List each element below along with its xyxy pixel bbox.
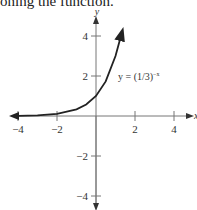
curve-left-arrow [9, 112, 19, 120]
graph: −4 −2 2 4 4 2 −2 −4 x y y = (1/3)−x [0, 0, 197, 210]
y-tick-label: −2 [76, 150, 88, 162]
x-tick-label: 2 [132, 123, 138, 135]
curve-label: y = (1/3)−x [118, 71, 159, 83]
y-tick-label: 2 [83, 70, 89, 82]
y-tick-label: −4 [76, 190, 88, 202]
y-tick-label: 4 [83, 30, 89, 42]
y-axis-label: y [94, 6, 100, 17]
curve-exponential [18, 34, 122, 116]
x-tick-label: 4 [171, 123, 177, 135]
x-axis-label: x [193, 110, 197, 121]
x-tick-label: −2 [51, 123, 63, 135]
x-tick-label: −4 [12, 123, 24, 135]
